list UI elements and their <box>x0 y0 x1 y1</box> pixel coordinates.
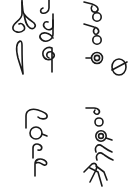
glyph-looped-stem-2 <box>35 159 47 176</box>
glyph-circle-1 <box>93 13 101 21</box>
glyph-circle-2 <box>93 36 101 44</box>
glyph-loop-2 <box>84 24 99 34</box>
glyph-circle-tail <box>42 134 47 136</box>
glyph-teardrop <box>17 41 23 74</box>
glyph-looped-stem-1 <box>33 144 42 158</box>
glyph-looped-circle <box>43 47 54 72</box>
glyph-circle-3 <box>30 127 42 139</box>
glyph-ring-tail-2 <box>106 138 112 140</box>
glyph-hooked-loop <box>26 109 47 128</box>
script-specimen: Glyph group 1 (top-left, two columns of … <box>0 0 132 190</box>
glyph-group-bottom-right: Glyph group 4 (bottom-right, loop, ringe… <box>84 108 113 186</box>
glyph-stem-2 <box>44 14 53 30</box>
glyph-crossed-circle-bar <box>112 62 127 70</box>
glyph-ladder <box>84 163 107 186</box>
glyph-looped-stem-4 <box>96 153 113 160</box>
glyph-group-bottom-left: Glyph group 3 (bottom-left, hooked loop,… <box>26 109 47 176</box>
glyph-hook-2 <box>22 2 35 29</box>
glyph-circle-4 <box>95 118 103 126</box>
glyph-ring-outer <box>92 53 103 64</box>
glyph-loop-1 <box>84 2 98 12</box>
glyph-ring-inner <box>94 55 99 60</box>
glyph-stem-1 <box>41 0 49 13</box>
glyph-ring-inner-2 <box>99 134 104 139</box>
glyph-group-top-right: Glyph group 2 (top-right, loop-and-circl… <box>84 2 127 75</box>
glyph-group-top-left: Glyph group 1 (top-left, two columns of … <box>13 0 54 74</box>
glyph-looped-stem-3 <box>95 145 112 152</box>
glyph-stem-3 <box>40 20 53 41</box>
glyph-loop-3 <box>86 108 99 114</box>
glyph-ring-outer-2 <box>96 131 106 141</box>
